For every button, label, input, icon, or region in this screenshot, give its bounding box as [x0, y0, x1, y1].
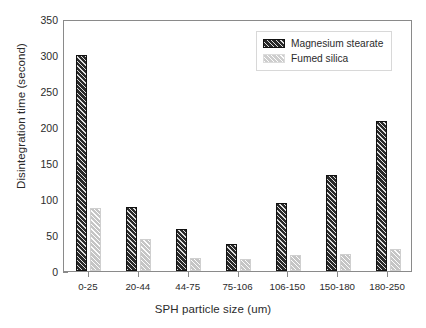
bar-magnesium-stearate — [326, 175, 337, 271]
legend-swatch-icon — [263, 54, 285, 63]
y-tick-label: 250 — [0, 86, 58, 98]
y-tick-label: 0 — [0, 266, 58, 278]
bar-magnesium-stearate — [76, 55, 87, 271]
x-tick-label: 44-75 — [175, 281, 200, 292]
x-tick-mark — [138, 272, 139, 277]
bar-magnesium-stearate — [376, 121, 387, 271]
legend-label: Fumed silica — [291, 53, 348, 64]
x-tick-mark — [188, 272, 189, 277]
x-tick-mark — [88, 272, 89, 277]
y-tick-mark — [63, 272, 68, 273]
bar-fumed-silica — [340, 254, 351, 271]
y-tick-label: 300 — [0, 50, 58, 62]
bar-magnesium-stearate — [226, 244, 237, 271]
x-tick-label: 150-180 — [319, 281, 355, 292]
bar-fumed-silica — [290, 255, 301, 271]
bar-magnesium-stearate — [176, 229, 187, 271]
x-axis-title: SPH particle size (um) — [0, 303, 426, 315]
bar-chart: Disintegration time (second) 05010015020… — [0, 0, 426, 328]
bar-fumed-silica — [240, 259, 251, 271]
x-tick-label: 75-106 — [222, 281, 252, 292]
bar-magnesium-stearate — [126, 207, 137, 271]
y-tick-label: 150 — [0, 158, 58, 170]
x-tick-mark — [238, 272, 239, 277]
x-tick-label: 106-150 — [270, 281, 306, 292]
y-tick-label: 50 — [0, 230, 58, 242]
legend-swatch-icon — [263, 39, 285, 48]
x-tick-mark — [287, 272, 288, 277]
legend-item: Magnesium stearate — [263, 37, 383, 50]
x-tick-mark — [387, 272, 388, 277]
x-tick-mark — [337, 272, 338, 277]
bar-fumed-silica — [390, 249, 401, 271]
y-tick-label: 350 — [0, 14, 58, 26]
chart-legend: Magnesium stearateFumed silica — [256, 31, 392, 71]
bar-magnesium-stearate — [276, 203, 287, 271]
y-tick-label: 100 — [0, 194, 58, 206]
x-tick-label: 180-250 — [369, 281, 405, 292]
bar-fumed-silica — [140, 239, 151, 271]
legend-item: Fumed silica — [263, 52, 383, 65]
bar-fumed-silica — [90, 208, 101, 271]
x-tick-label: 20-44 — [125, 281, 150, 292]
x-tick-label: 0-25 — [78, 281, 97, 292]
bar-fumed-silica — [190, 258, 201, 271]
y-tick-label: 200 — [0, 122, 58, 134]
legend-label: Magnesium stearate — [291, 38, 383, 49]
